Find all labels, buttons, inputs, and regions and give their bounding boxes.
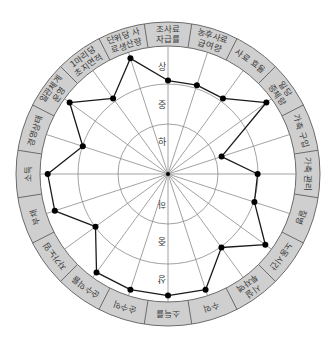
data-point	[219, 154, 225, 160]
category-label: 단위당 사료생산량	[105, 26, 144, 56]
level-label: 상	[158, 62, 166, 72]
center-point	[166, 172, 170, 176]
spoke	[168, 99, 272, 174]
spoke	[46, 134, 168, 174]
spoke	[168, 174, 208, 296]
level-label: 중	[158, 236, 166, 246]
data-point	[255, 171, 261, 177]
data-point	[67, 100, 73, 106]
level-label: 중	[158, 100, 166, 110]
data-point	[203, 287, 209, 293]
data-point	[45, 171, 51, 177]
spoke	[93, 70, 168, 174]
data-point	[94, 269, 100, 275]
category-label-line: 가축 관리	[303, 157, 313, 192]
spoke	[168, 70, 243, 174]
data-point	[218, 245, 224, 251]
radar-chart: 상중하하중상 조사료자급률농후사료급여량사료 효율일당증체량가축 구입가축 관리…	[0, 0, 332, 343]
category-label: 가축 관리	[303, 157, 313, 192]
spoke	[93, 174, 168, 278]
spoke	[168, 52, 208, 174]
level-label: 하	[158, 137, 167, 147]
series-line	[48, 58, 267, 295]
category-label-line: 소득	[23, 166, 33, 182]
spoke	[64, 174, 168, 249]
spoke	[46, 174, 168, 214]
data-point	[251, 199, 257, 205]
data-point	[262, 242, 268, 248]
data-point	[263, 100, 269, 106]
data-point	[80, 143, 86, 149]
category-label: 소득	[23, 166, 33, 182]
data-point	[165, 78, 171, 84]
data-point	[127, 287, 133, 293]
data-point	[194, 82, 200, 88]
category-label-line: 조사료	[156, 24, 180, 34]
data-point	[127, 55, 133, 61]
category-label-line: 소득률	[156, 309, 180, 319]
spoke	[168, 134, 290, 174]
data-point	[165, 293, 171, 299]
data-point	[52, 208, 58, 214]
spoke	[168, 174, 290, 214]
category-label-line: 자급률	[156, 34, 180, 44]
level-label: 상	[158, 274, 166, 284]
radar-chart-svg: 상중하하중상 조사료자급률농후사료급여량사료 효율일당증체량가축 구입가축 관리…	[0, 0, 332, 343]
data-point	[93, 224, 99, 230]
spoke	[168, 174, 243, 278]
data-point	[220, 95, 226, 101]
data-point	[110, 95, 116, 101]
category-label: 조사료자급률	[156, 24, 180, 44]
level-label: 하	[157, 199, 166, 209]
category-label: 소득률	[156, 309, 180, 319]
